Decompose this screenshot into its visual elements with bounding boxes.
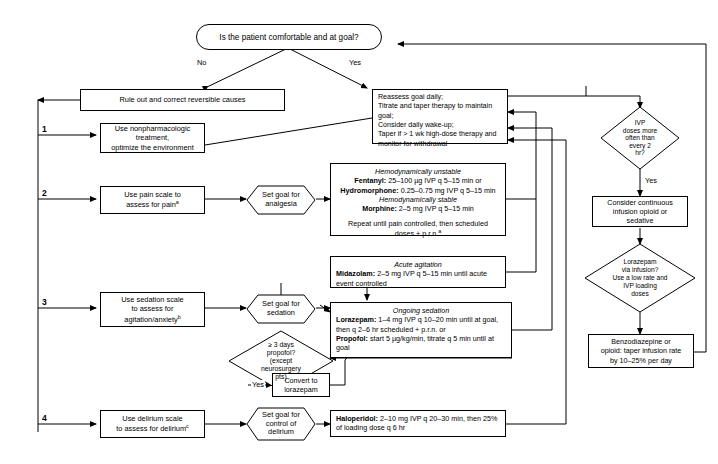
drug-dose-fentanyl: 25–100 µg IVP q 5–15 min or — [386, 176, 482, 185]
drug-name-propofol: Propofol: — [336, 334, 368, 343]
step-2-label: Use pain scale toassess for paina — [124, 190, 181, 210]
step-number-2: 2 — [42, 188, 47, 198]
drug-dose-hydromorphone: 0.25–0.75 mg IVP q 5–15 min — [399, 186, 496, 195]
step-3-label: Use sedation scaleto assess foragitation… — [121, 295, 183, 325]
footnote-marker-sedation: b — [178, 314, 181, 320]
analgesia-line-morphine: Morphine: 2–5 mg IVP q 5–15 min — [336, 204, 500, 213]
continuous-infusion-box[interactable]: Consider continuous infusion opioid or s… — [592, 196, 688, 227]
reassess-line-5: monitor for withdrawal — [378, 140, 502, 149]
footnote-marker-pain: a — [176, 199, 179, 205]
edge-label-yes: Yes — [348, 58, 362, 67]
step-4-label: Use delirium scaleto assess for delirium… — [116, 414, 189, 434]
ongoing-sedation-box[interactable]: Ongoing sedation Lorazepam: 1–4 mg IVP q… — [330, 302, 512, 358]
analgesia-line-hydromorphone: Hydromorphone: 0.25–0.75 mg IVP q 5–15 m… — [336, 186, 500, 195]
goal-sedation-label: Set goal for sedation — [258, 300, 304, 318]
taper-infusion-box[interactable]: Benzodiazepine or opioid: taper infusion… — [588, 334, 694, 368]
acute-agitation-box[interactable]: Acute agitation Midazolam: 2–5 mg IVP q … — [330, 256, 506, 288]
goal-delirium-hexagon[interactable]: Set goal for control of delirium — [246, 407, 316, 441]
lorazepam-infusion-label: Lorazepam via infusion? Use a low rate a… — [609, 258, 672, 298]
lorazepam-infusion-decision[interactable]: Lorazepam via infusion? Use a low rate a… — [584, 243, 696, 313]
step-1-box[interactable]: Use nonpharmacologic treatment, optimize… — [100, 123, 205, 153]
step-number-3: 3 — [42, 297, 47, 307]
footnote-marker-delirium: c — [186, 423, 189, 429]
step-4-box[interactable]: Use delirium scaleto assess for delirium… — [100, 410, 205, 438]
entry-question-label: Is the patient comfortable and at goal? — [219, 33, 358, 42]
drug-name-haloperidol: Haloperidol: — [336, 414, 378, 423]
drug-dose-morphine: 2–5 mg IVP q 5–15 min — [397, 204, 474, 213]
drug-name-lorazepam: Lorazepam: — [336, 315, 376, 324]
drug-name-morphine: Morphine: — [362, 204, 397, 213]
flowchart-canvas: Is the patient comfortable and at goal? … — [0, 0, 718, 464]
drug-name-hydromorphone: Hydromorphone: — [340, 186, 398, 195]
analgesia-line-fentanyl: Fentanyl: 25–100 µg IVP q 5–15 min or — [336, 176, 500, 185]
reassess-line-4: Taper if > 1 wk high-dose therapy and — [378, 130, 502, 139]
drug-name-midazolam: Midazolam: — [336, 269, 375, 278]
analgesia-footer-text: Repeat until pain controlled, then sched… — [348, 219, 488, 239]
goal-analgesia-label: Set goal for analgesia — [258, 191, 304, 209]
reassess-goal-box[interactable]: Reassess goal daily; Titrate and taper t… — [372, 89, 508, 144]
ongoing-sedation-line-propofol: Propofol: start 5 µg/kg/min, titrate q 5… — [336, 334, 506, 353]
delirium-drug-box[interactable]: Haloperidol: 2–10 mg IVP q 20–30 min, th… — [330, 410, 506, 437]
goal-delirium-label: Set goal for control of delirium — [258, 411, 304, 438]
step-2-box[interactable]: Use pain scale toassess for paina — [100, 186, 205, 214]
acute-agitation-line: Midazolam: 2–5 mg IVP q 5–15 min until a… — [336, 269, 500, 288]
propofol-decision-label: ≥ 3 days propofol? (except neurosurgery … — [257, 341, 305, 382]
step-number-1: 1 — [42, 124, 47, 134]
step-number-4: 4 — [42, 413, 47, 423]
ivp-decision-label: IVP doses more often than every 2 hr? — [619, 119, 661, 157]
footnote-marker-prn: a — [438, 228, 441, 234]
step-3-box[interactable]: Use sedation scaleto assess foragitation… — [100, 292, 205, 327]
analgesia-heading-unstable: Hemodynamically unstable — [336, 167, 500, 176]
reassess-line-3: Consider daily wake-up; — [378, 121, 502, 130]
acute-agitation-heading: Acute agitation — [336, 260, 500, 269]
analgesia-heading-stable: Hemodynamically stable — [336, 195, 500, 204]
reassess-line-2: Titrate and taper therapy to maintain go… — [378, 102, 502, 121]
delirium-line-haloperidol: Haloperidol: 2–10 mg IVP q 20–30 min, th… — [336, 414, 500, 433]
rule-out-box[interactable]: Rule out and correct reversible causes — [80, 89, 285, 111]
goal-sedation-hexagon[interactable]: Set goal for sedation — [246, 294, 316, 324]
ongoing-sedation-heading: Ongoing sedation — [336, 306, 506, 315]
reassess-line-1: Reassess goal daily; — [378, 93, 502, 102]
edge-label-no: No — [196, 58, 207, 67]
goal-analgesia-hexagon[interactable]: Set goal for analgesia — [246, 185, 316, 215]
analgesia-footer: Repeat until pain controlled, then sched… — [336, 219, 500, 239]
entry-decision-node[interactable]: Is the patient comfortable and at goal? — [196, 24, 382, 50]
ongoing-sedation-line-lorazepam: Lorazepam: 1–4 mg IVP q 10–20 min until … — [336, 315, 506, 334]
analgesia-drug-box[interactable]: Hemodynamically unstable Fentanyl: 25–10… — [330, 163, 506, 236]
rule-out-label: Rule out and correct reversible causes — [119, 95, 245, 104]
ivp-yes-label: Yes — [644, 176, 658, 185]
ivp-frequency-decision[interactable]: IVP doses more often than every 2 hr? — [600, 106, 680, 170]
drug-name-fentanyl: Fentanyl: — [354, 176, 386, 185]
